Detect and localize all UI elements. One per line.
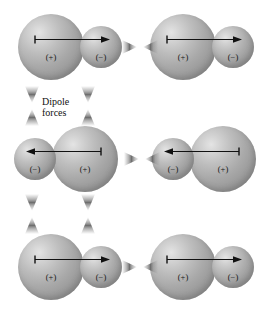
- dipole-moment-arrow: [34, 34, 110, 45]
- dipole-moment-arrow: [26, 146, 102, 157]
- positive-charge-label: (+): [74, 165, 96, 174]
- positive-charge-label: (+): [212, 165, 234, 174]
- big-atom-sphere: [190, 126, 256, 192]
- dipole-forces-label: Dipole forces: [42, 96, 69, 118]
- dipole-moment-arrow: [164, 146, 240, 157]
- positive-charge-label: (+): [172, 273, 194, 282]
- dipole-moment-arrow: [166, 254, 242, 265]
- horizontal-dipole-force-arrow-row2: [124, 151, 160, 167]
- dipole-forces-label-line2: forces: [42, 107, 69, 118]
- dipole-forces-figure: (+) (−) (+) (−): [0, 0, 275, 313]
- molecule-top-right: (+) (−): [150, 14, 272, 82]
- vertical-dipole-force-arrow-right-lower: [80, 194, 96, 234]
- negative-charge-label: (−): [222, 273, 244, 282]
- positive-charge-label: (+): [40, 53, 62, 62]
- negative-charge-label: (−): [162, 165, 184, 174]
- big-atom-sphere: [18, 14, 84, 80]
- negative-charge-label: (−): [90, 273, 112, 282]
- negative-charge-label: (−): [90, 53, 112, 62]
- horizontal-dipole-force-arrow-row1: [122, 39, 158, 55]
- vertical-dipole-force-arrow-right-upper: [80, 86, 96, 126]
- big-atom-sphere: [150, 234, 216, 300]
- vertical-dipole-force-arrow-left-upper: [24, 86, 40, 126]
- vertical-dipole-force-arrow-left-lower: [24, 194, 40, 234]
- dipole-moment-arrow: [166, 34, 242, 45]
- big-atom-sphere: [18, 234, 84, 300]
- molecule-bottom-right: (+) (−): [150, 234, 272, 302]
- horizontal-dipole-force-arrow-row3: [122, 259, 158, 275]
- dipole-moment-arrow: [34, 254, 110, 265]
- negative-charge-label: (−): [222, 53, 244, 62]
- dipole-forces-label-line1: Dipole: [42, 96, 69, 107]
- negative-charge-label: (−): [24, 165, 46, 174]
- positive-charge-label: (+): [172, 53, 194, 62]
- positive-charge-label: (+): [40, 273, 62, 282]
- big-atom-sphere: [52, 126, 118, 192]
- molecule-middle-right: (−) (+): [152, 126, 274, 194]
- big-atom-sphere: [150, 14, 216, 80]
- molecule-middle-left: (−) (+): [14, 126, 136, 194]
